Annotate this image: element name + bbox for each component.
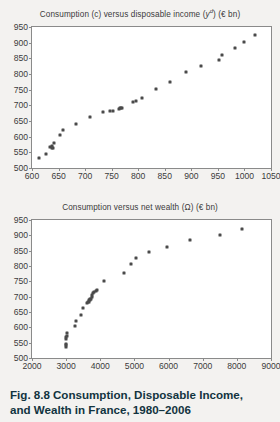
chart2-ytick-label: 850 [14, 246, 28, 256]
data-point [101, 110, 104, 113]
data-point [140, 97, 143, 100]
chart1-xtick-label: 650 [51, 171, 65, 181]
data-point [65, 335, 68, 338]
chart2-title: Consumption versus net wealth (Ω) (€ bn) [0, 203, 280, 212]
caption-line-2: and Wealth in France, 1980–2006 [10, 403, 270, 418]
data-point [95, 288, 98, 291]
data-point [185, 71, 188, 74]
chart1-plot-area: 5005506006507007508008509009506006507007… [31, 26, 272, 169]
chart2-xtick-label: 4000 [91, 361, 110, 371]
chart1-ytick-label: 850 [14, 53, 28, 63]
chart2-ytick-label: 900 [14, 230, 28, 240]
data-point [200, 65, 203, 68]
data-point [155, 88, 158, 91]
chart1-ytick-label: 900 [14, 38, 28, 48]
data-point [74, 325, 77, 328]
data-point [135, 257, 138, 260]
chart-consumption-vs-net-wealth: Consumption versus net wealth (Ω) (€ bn)… [0, 194, 280, 384]
data-point [242, 40, 245, 43]
chart2-xtick-label: 9000 [261, 361, 280, 371]
chart-consumption-vs-disposable-income: Consumption (c) versus disposable income… [0, 0, 280, 194]
data-point [240, 227, 243, 230]
data-point [188, 239, 191, 242]
data-point [130, 263, 133, 266]
chart2-xtick-label: 5000 [125, 361, 144, 371]
data-point [52, 141, 55, 144]
chart1-ytick-label: 550 [14, 147, 28, 157]
data-point [254, 34, 257, 37]
chart1-xtick-label: 950 [211, 171, 225, 181]
data-point [234, 46, 237, 49]
chart1-ytick-label: 700 [14, 100, 28, 110]
chart2-plot-area: 5005506006507007508008509009502000300040… [31, 219, 272, 359]
data-point [169, 80, 172, 83]
chart1-xtick-label: 750 [104, 171, 118, 181]
chart2-xtick-label: 8000 [227, 361, 246, 371]
figure-container: Consumption (c) versus disposable income… [0, 0, 280, 422]
chart2-xtick-label: 7000 [193, 361, 212, 371]
chart2-ytick-label: 700 [14, 292, 28, 302]
data-point [123, 272, 126, 275]
data-point [217, 59, 220, 62]
chart2-ytick-label: 600 [14, 322, 28, 332]
chart1-xtick-label: 1050 [261, 171, 280, 181]
caption-figure-number: Fig. 8.8 [10, 388, 50, 401]
data-point [59, 134, 62, 137]
chart1-xtick-label: 1000 [235, 171, 254, 181]
data-point [82, 307, 85, 310]
chart2-ytick-label: 950 [14, 215, 28, 225]
chart1-ytick-label: 750 [14, 85, 28, 95]
data-point [65, 345, 68, 348]
chart1-ytick-label: 950 [14, 22, 28, 32]
chart2-xtick-label: 2000 [22, 361, 41, 371]
chart1-ytick-label: 650 [14, 116, 28, 126]
data-point [75, 319, 78, 322]
data-point [65, 332, 68, 335]
chart1-title: Consumption (c) versus disposable income… [0, 8, 280, 19]
data-point [218, 233, 221, 236]
data-point [221, 54, 224, 57]
chart1-ytick-label: 600 [14, 132, 28, 142]
data-point [166, 245, 169, 248]
data-point [134, 99, 137, 102]
data-point [88, 116, 91, 119]
data-point [111, 109, 114, 112]
chart1-xtick-label: 600 [25, 171, 39, 181]
chart1-points [32, 27, 271, 168]
data-point [79, 313, 82, 316]
chart1-xtick-label: 850 [158, 171, 172, 181]
chart2-xtick-label: 3000 [57, 361, 76, 371]
chart1-xtick-label: 800 [131, 171, 145, 181]
chart2-ytick-label: 750 [14, 276, 28, 286]
chart2-ytick-label: 800 [14, 261, 28, 271]
chart2-ytick-label: 650 [14, 307, 28, 317]
data-point [44, 152, 47, 155]
caption-text-1: Consumption, Disposable Income, [53, 388, 243, 401]
chart2-points [32, 220, 271, 358]
chart1-xtick-label: 700 [78, 171, 92, 181]
data-point [120, 106, 123, 109]
chart2-ytick-label: 550 [14, 338, 28, 348]
data-point [103, 279, 106, 282]
chart1-ytick-label: 800 [14, 69, 28, 79]
chart2-xtick-label: 6000 [159, 361, 178, 371]
data-point [38, 156, 41, 159]
data-point [61, 128, 64, 131]
caption-line-1: Fig. 8.8Consumption, Disposable Income, [10, 388, 270, 403]
figure-caption: Fig. 8.8Consumption, Disposable Income, … [0, 384, 280, 422]
data-point [148, 250, 151, 253]
data-point [51, 147, 54, 150]
data-point [75, 122, 78, 125]
chart1-xtick-label: 900 [184, 171, 198, 181]
